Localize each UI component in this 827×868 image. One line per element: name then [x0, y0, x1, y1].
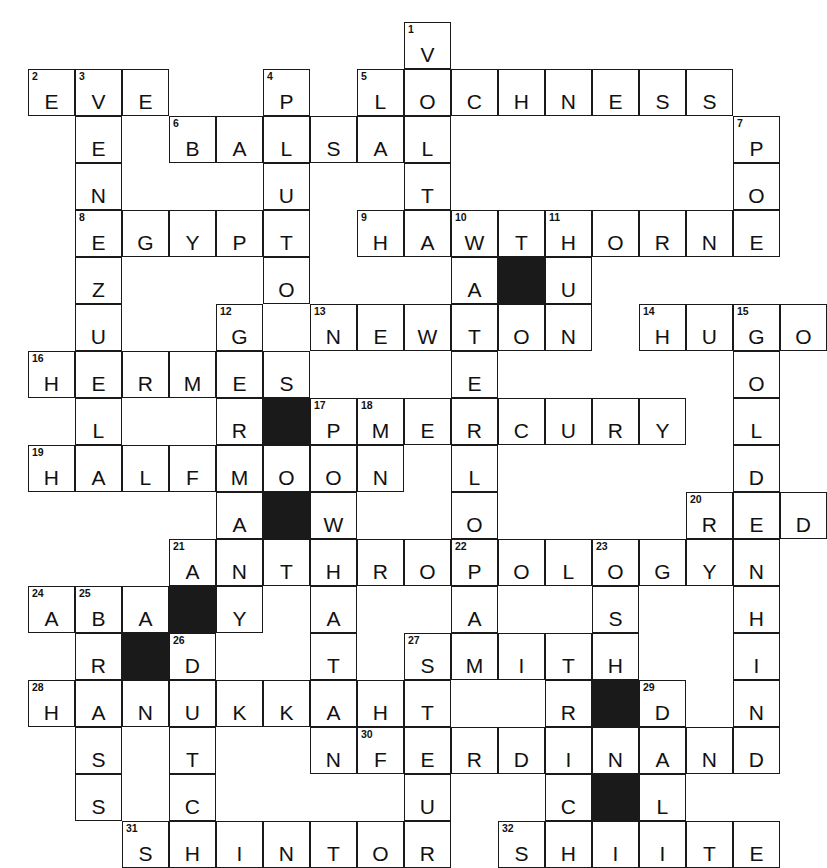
crossword-cell[interactable]: N — [216, 539, 263, 586]
crossword-cell[interactable]: R — [545, 680, 592, 727]
crossword-cell[interactable]: T — [310, 821, 357, 868]
crossword-cell[interactable]: T — [263, 210, 310, 257]
crossword-cell[interactable]: T — [404, 163, 451, 210]
crossword-cell[interactable]: E — [404, 398, 451, 445]
crossword-cell[interactable]: R — [639, 210, 686, 257]
crossword-cell[interactable]: A — [310, 680, 357, 727]
crossword-cell[interactable]: S — [75, 774, 122, 821]
crossword-cell[interactable]: N — [263, 821, 310, 868]
crossword-cell[interactable]: O — [780, 304, 827, 351]
crossword-cell[interactable]: T — [545, 633, 592, 680]
crossword-cell[interactable]: N — [733, 539, 780, 586]
crossword-cell[interactable]: E — [216, 351, 263, 398]
crossword-cell[interactable]: H — [310, 539, 357, 586]
crossword-cell[interactable]: R — [122, 351, 169, 398]
crossword-cell[interactable]: A — [451, 257, 498, 304]
crossword-cell[interactable]: K — [263, 680, 310, 727]
crossword-cell[interactable]: A — [639, 727, 686, 774]
crossword-cell[interactable]: K — [216, 680, 263, 727]
crossword-cell[interactable]: 9H — [357, 210, 404, 257]
crossword-cell[interactable]: U — [263, 163, 310, 210]
crossword-cell[interactable]: O — [263, 445, 310, 492]
crossword-cell[interactable]: 24A — [28, 586, 75, 633]
crossword-cell[interactable]: D — [733, 445, 780, 492]
crossword-cell[interactable]: 19H — [28, 445, 75, 492]
crossword-cell[interactable]: 8E — [75, 210, 122, 257]
crossword-cell[interactable]: I — [639, 821, 686, 868]
crossword-cell[interactable]: E — [592, 69, 639, 116]
crossword-cell[interactable]: 31S — [122, 821, 169, 868]
crossword-cell[interactable]: R — [592, 398, 639, 445]
crossword-cell[interactable]: C — [169, 774, 216, 821]
crossword-cell[interactable]: 26D — [169, 633, 216, 680]
crossword-cell[interactable]: 5L — [357, 69, 404, 116]
crossword-cell[interactable]: T — [451, 304, 498, 351]
crossword-cell[interactable]: O — [451, 492, 498, 539]
crossword-cell[interactable]: N — [545, 69, 592, 116]
crossword-cell[interactable]: I — [733, 633, 780, 680]
crossword-cell[interactable]: R — [357, 539, 404, 586]
crossword-cell[interactable]: S — [263, 351, 310, 398]
crossword-cell[interactable]: R — [75, 633, 122, 680]
crossword-cell[interactable]: A — [216, 116, 263, 163]
crossword-cell[interactable]: O — [357, 821, 404, 868]
crossword-cell[interactable]: L — [733, 398, 780, 445]
crossword-cell[interactable]: 2E — [28, 69, 75, 116]
crossword-cell[interactable]: 6B — [169, 116, 216, 163]
crossword-cell[interactable]: L — [639, 774, 686, 821]
crossword-cell[interactable]: O — [310, 445, 357, 492]
crossword-cell[interactable]: W — [404, 304, 451, 351]
crossword-cell[interactable]: O — [404, 539, 451, 586]
crossword-cell[interactable]: M — [451, 633, 498, 680]
crossword-cell[interactable]: E — [404, 727, 451, 774]
crossword-cell[interactable]: H — [545, 821, 592, 868]
crossword-cell[interactable]: 32S — [498, 821, 545, 868]
crossword-cell[interactable]: A — [310, 586, 357, 633]
crossword-cell[interactable]: L — [75, 398, 122, 445]
crossword-cell[interactable]: 11H — [545, 210, 592, 257]
crossword-cell[interactable]: L — [451, 445, 498, 492]
crossword-cell[interactable]: H — [498, 69, 545, 116]
crossword-cell[interactable]: U — [545, 257, 592, 304]
crossword-cell[interactable]: T — [169, 727, 216, 774]
crossword-cell[interactable]: R — [404, 821, 451, 868]
crossword-cell[interactable]: S — [310, 116, 357, 163]
crossword-cell[interactable]: 29D — [639, 680, 686, 727]
crossword-cell[interactable]: H — [169, 821, 216, 868]
crossword-cell[interactable]: 28H — [28, 680, 75, 727]
crossword-cell[interactable]: D — [780, 492, 827, 539]
crossword-cell[interactable]: N — [686, 727, 733, 774]
crossword-cell[interactable]: 18M — [357, 398, 404, 445]
crossword-cell[interactable]: U — [75, 304, 122, 351]
crossword-cell[interactable]: 17P — [310, 398, 357, 445]
crossword-cell[interactable]: A — [75, 680, 122, 727]
crossword-cell[interactable]: S — [75, 727, 122, 774]
crossword-cell[interactable]: I — [545, 727, 592, 774]
crossword-cell[interactable]: U — [404, 774, 451, 821]
crossword-cell[interactable]: O — [404, 69, 451, 116]
crossword-cell[interactable]: O — [498, 304, 545, 351]
crossword-cell[interactable]: A — [122, 586, 169, 633]
crossword-cell[interactable]: 25B — [75, 586, 122, 633]
crossword-cell[interactable]: A — [404, 210, 451, 257]
crossword-cell[interactable]: P — [216, 210, 263, 257]
crossword-cell[interactable]: D — [733, 727, 780, 774]
crossword-cell[interactable]: A — [451, 586, 498, 633]
crossword-cell[interactable]: L — [545, 539, 592, 586]
crossword-cell[interactable]: O — [733, 163, 780, 210]
crossword-cell[interactable]: N — [545, 304, 592, 351]
crossword-cell[interactable]: 14H — [639, 304, 686, 351]
crossword-cell[interactable]: U — [169, 680, 216, 727]
crossword-cell[interactable]: 15G — [733, 304, 780, 351]
crossword-cell[interactable]: L — [122, 445, 169, 492]
crossword-cell[interactable]: H — [592, 633, 639, 680]
crossword-cell[interactable]: E — [733, 210, 780, 257]
crossword-cell[interactable]: 30F — [357, 727, 404, 774]
crossword-cell[interactable]: O — [592, 210, 639, 257]
crossword-cell[interactable]: 10W — [451, 210, 498, 257]
crossword-cell[interactable]: L — [404, 116, 451, 163]
crossword-cell[interactable]: W — [310, 492, 357, 539]
crossword-cell[interactable]: O — [263, 257, 310, 304]
crossword-cell[interactable]: N — [75, 163, 122, 210]
crossword-cell[interactable]: I — [498, 633, 545, 680]
